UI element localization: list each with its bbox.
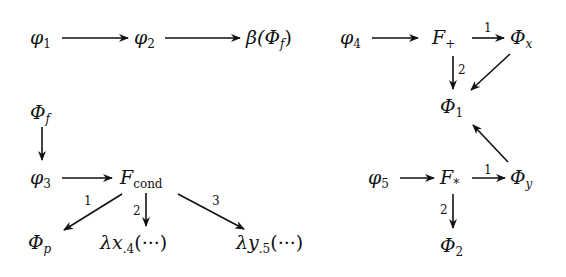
node-phi5: φ5 bbox=[368, 168, 389, 190]
node-Phi-p: Φp bbox=[28, 233, 51, 255]
node-base: Φ bbox=[510, 26, 526, 48]
node-base: λx bbox=[100, 231, 123, 253]
node-sub: 2 bbox=[456, 245, 464, 259]
edge-label-2: 2 bbox=[458, 64, 466, 76]
node-lambda-x: λx.4(···) bbox=[100, 233, 167, 255]
node-F-plus: F+ bbox=[432, 28, 455, 50]
node-phi2: φ2 bbox=[134, 28, 155, 50]
node-sub: 2 bbox=[147, 37, 155, 51]
edge-Phiy-Phi1 bbox=[473, 125, 508, 162]
node-beta-Phi-f: β(Φf) bbox=[246, 28, 292, 50]
node-phi1: φ1 bbox=[30, 28, 51, 50]
node-sub: 1 bbox=[43, 37, 51, 51]
node-phi4: φ4 bbox=[340, 28, 361, 50]
node-lambda-y: λy.5(···) bbox=[236, 233, 303, 255]
node-prefix: β( bbox=[246, 26, 264, 48]
node-sub: 4 bbox=[353, 37, 361, 51]
node-base: F bbox=[432, 26, 445, 48]
node-base: F bbox=[440, 166, 453, 188]
node-base: Φ bbox=[440, 234, 456, 256]
node-base: φ bbox=[30, 26, 43, 48]
node-sub: 5 bbox=[381, 177, 389, 191]
node-F-star: F* bbox=[440, 168, 459, 190]
node-sub: .4 bbox=[123, 242, 134, 256]
node-sub: .5 bbox=[259, 242, 270, 256]
node-sub: + bbox=[445, 37, 455, 51]
node-Phi-1: Φ1 bbox=[440, 97, 463, 119]
edge-Fcond-Phip bbox=[64, 194, 122, 230]
edge-label-1: 1 bbox=[484, 164, 492, 176]
node-sub: 1 bbox=[456, 106, 464, 120]
edge-label-1: 1 bbox=[484, 22, 492, 34]
node-base: λy bbox=[236, 231, 259, 253]
node-base: Φ bbox=[440, 95, 456, 117]
node-Phi-y: Φy bbox=[510, 168, 532, 190]
node-base: Φ bbox=[510, 166, 526, 188]
node-F-cond: Fcond bbox=[120, 168, 163, 190]
node-base: Φ bbox=[264, 26, 280, 48]
node-Phi-x: Φx bbox=[510, 28, 532, 50]
node-base: φ bbox=[134, 26, 147, 48]
node-sub: y bbox=[526, 177, 533, 191]
node-base: Φ bbox=[28, 231, 44, 253]
node-base: Φ bbox=[30, 101, 46, 123]
edge-label-1: 1 bbox=[84, 195, 92, 207]
node-Phi-f: Φf bbox=[30, 103, 50, 125]
node-suffix: ) bbox=[284, 26, 291, 48]
node-base: φ bbox=[368, 166, 381, 188]
edge-label-3: 3 bbox=[212, 195, 220, 207]
edge-Phix-Phi1 bbox=[471, 54, 510, 90]
node-suffix: (···) bbox=[270, 231, 303, 253]
node-Phi-2: Φ2 bbox=[440, 236, 463, 258]
node-sub: f bbox=[46, 112, 50, 126]
edge-Fcond-lambday bbox=[178, 194, 244, 229]
node-phi3: φ3 bbox=[30, 168, 51, 190]
node-sub: p bbox=[44, 242, 52, 256]
node-base: φ bbox=[340, 26, 353, 48]
node-sub: cond bbox=[133, 177, 162, 191]
node-suffix: (···) bbox=[134, 231, 167, 253]
node-base: φ bbox=[30, 166, 43, 188]
edge-label-2: 2 bbox=[133, 205, 141, 217]
node-sub: 3 bbox=[43, 177, 51, 191]
edge-label-2: 2 bbox=[440, 204, 448, 216]
node-base: F bbox=[120, 166, 133, 188]
node-sub: * bbox=[453, 177, 459, 191]
node-sub: x bbox=[526, 37, 533, 51]
